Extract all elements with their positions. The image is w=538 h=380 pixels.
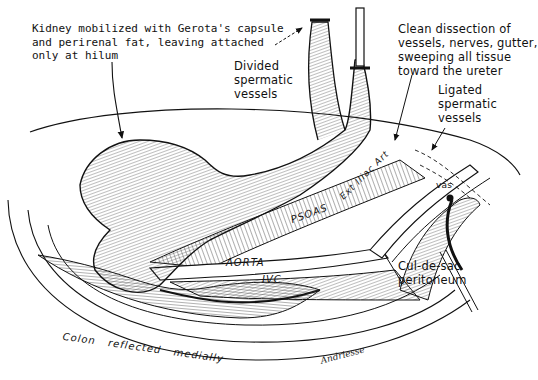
aorta-label: AORTA [226,257,265,268]
ivc-label: IVC [262,274,282,285]
dissection-pointer [395,75,412,140]
clean-dissection-label: Clean dissection of vessels, nerves, gut… [398,22,538,78]
vas-label: vas [436,178,452,192]
kidney-pointer [112,62,122,138]
divided-vessels-label: Divided spermatic vessels [234,59,293,101]
kidney-label: Kidney mobilized with Gerota's capsule a… [32,22,284,63]
ureter-tube [356,8,364,66]
ligated-vessels-label: Ligated spermatic vessels [438,83,497,125]
cul-de-sac-label: Cul-de-sac peritoneum [398,259,467,287]
divided-spermatic-vessel-stump [309,22,345,140]
